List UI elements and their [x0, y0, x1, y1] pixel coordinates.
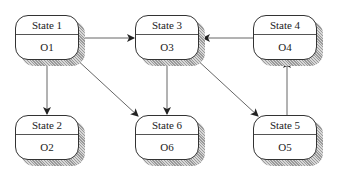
state-label: State 5 — [254, 116, 316, 135]
state-node-3: State 3 O3 — [135, 15, 199, 60]
node-box: State 2 O2 — [15, 115, 79, 160]
output-label: O3 — [136, 35, 198, 59]
state-label: State 4 — [254, 16, 316, 35]
output-label: O2 — [16, 135, 78, 159]
state-node-4: State 4 O4 — [253, 15, 317, 60]
output-label: O6 — [136, 135, 198, 159]
state-label: State 6 — [136, 116, 198, 135]
state-node-1: State 1 O1 — [15, 15, 79, 60]
node-box: State 6 O6 — [135, 115, 199, 160]
state-node-2: State 2 O2 — [15, 115, 79, 160]
node-box: State 4 O4 — [253, 15, 317, 60]
state-label: State 2 — [16, 116, 78, 135]
state-label: State 1 — [16, 16, 78, 35]
output-label: O5 — [254, 135, 316, 159]
state-label: State 3 — [136, 16, 198, 35]
output-label: O1 — [16, 35, 78, 59]
node-box: State 5 O5 — [253, 115, 317, 160]
state-node-5: State 5 O5 — [253, 115, 317, 160]
output-label: O4 — [254, 35, 316, 59]
node-box: State 1 O1 — [15, 15, 79, 60]
state-node-6: State 6 O6 — [135, 115, 199, 160]
edge-s3-s5 — [194, 57, 258, 116]
edge-s1-s6 — [74, 57, 138, 116]
node-box: State 3 O3 — [135, 15, 199, 60]
